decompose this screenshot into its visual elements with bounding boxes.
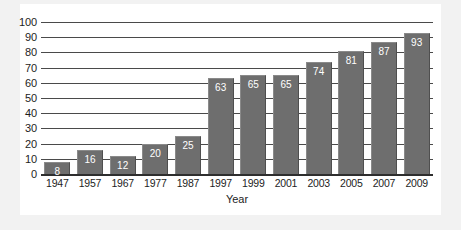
x-axis: 1947195719671977198719971999200120032005… [41,177,433,193]
y-axis-tick-label: 60 [3,77,37,89]
bar-slot: 63 [208,22,234,174]
bar-slot: 87 [371,22,397,174]
bar-slot: 8 [44,22,70,174]
bar[interactable]: 87 [371,42,397,174]
bar-value-label: 93 [405,37,429,48]
x-axis-tick-label: 2003 [302,177,335,189]
y-axis-tick-label: 90 [3,31,37,43]
bar-value-label: 16 [78,154,102,165]
bar-value-label: 81 [339,55,363,66]
x-axis-tick-label: 1977 [139,177,172,189]
bar[interactable]: 20 [142,144,168,174]
bar-slot: 16 [77,22,103,174]
bar[interactable]: 93 [404,33,430,174]
bar[interactable]: 65 [240,75,266,174]
bar-slot: 20 [142,22,168,174]
y-axis-tick-label: 40 [3,107,37,119]
x-axis-tick-label: 1947 [41,177,74,189]
bar-value-label: 25 [176,140,200,151]
bar-slot: 93 [404,22,430,174]
x-axis-tick-label: 2001 [270,177,303,189]
x-axis-tick-label: 2007 [368,177,401,189]
bar[interactable]: 25 [175,136,201,174]
bar[interactable]: 8 [44,162,70,174]
y-axis-tick-label: 0 [3,168,37,180]
x-axis-tick-label: 2009 [400,177,433,189]
chart-figure: 1009080706050403020100 81612202563656574… [0,0,461,230]
y-axis: 1009080706050403020100 [0,22,37,174]
x-axis-tick-label: 1997 [204,177,237,189]
bar-value-label: 87 [372,46,396,57]
axis-baseline [41,174,433,176]
bar-value-label: 8 [45,166,69,177]
x-axis-tick-label: 1999 [237,177,270,189]
bar-value-label: 65 [241,79,265,90]
x-axis-tick-label: 2005 [335,177,368,189]
bar[interactable]: 65 [273,75,299,174]
bar[interactable]: 16 [77,150,103,174]
x-axis-tick-label: 1957 [74,177,107,189]
bar-slot: 12 [110,22,136,174]
bar-slot: 65 [240,22,266,174]
bar[interactable]: 81 [338,51,364,174]
bar[interactable]: 74 [306,62,332,174]
bar-value-label: 20 [143,148,167,159]
y-axis-tick-label: 100 [3,16,37,28]
x-axis-title: Year [41,193,433,205]
bar-slot: 65 [273,22,299,174]
y-axis-tick-label: 10 [3,153,37,165]
x-axis-tick-label: 1967 [106,177,139,189]
bar-value-label: 63 [209,82,233,93]
y-axis-tick-label: 70 [3,62,37,74]
y-axis-tick-label: 80 [3,46,37,58]
y-axis-tick-label: 50 [3,92,37,104]
bars-layer: 81612202563656574818793 [41,22,433,174]
bar-value-label: 65 [274,79,298,90]
y-axis-tick-label: 30 [3,122,37,134]
bar[interactable]: 12 [110,156,136,174]
bar[interactable]: 63 [208,78,234,174]
bar-slot: 81 [338,22,364,174]
bar-slot: 25 [175,22,201,174]
bar-value-label: 74 [307,66,331,77]
x-axis-tick-label: 1987 [172,177,205,189]
bar-value-label: 12 [111,160,135,171]
y-axis-tick-label: 20 [3,138,37,150]
bar-slot: 74 [306,22,332,174]
